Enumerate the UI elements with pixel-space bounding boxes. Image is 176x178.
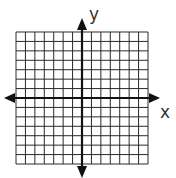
x-axis-left-arrow-icon (4, 93, 15, 103)
y-axis-down-arrow-icon (77, 166, 87, 178)
grid-svg (0, 0, 176, 178)
y-axis-label: y (89, 6, 99, 23)
x-axis-label: x (160, 104, 170, 121)
x-axis-right-arrow-icon (149, 93, 160, 103)
y-axis-up-arrow-icon (77, 18, 87, 30)
